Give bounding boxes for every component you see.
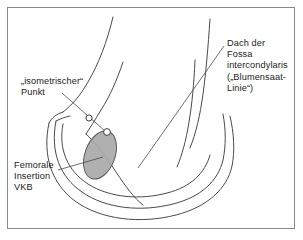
anatomy-illustration [0,0,303,240]
roof-leader-line [138,46,224,168]
label-notch-roof: Dach der Fossa intercondylaris („Blumens… [227,38,288,94]
femur-posterior-cortex [190,19,210,148]
label-femoral-insertion: Femorale Insertion VKB [14,160,54,194]
isometric-leader-line [62,93,105,131]
isometric-point-upper-marker [86,115,92,121]
femur-posterior-cortex-inner [177,60,195,167]
isometric-point-lower-marker [104,129,111,136]
femoral-acl-insertion-ellipse [77,126,122,183]
medial-condyle-arc [54,114,225,208]
figure-root: „isometrischer“ Punkt Femorale Insertion… [0,0,303,240]
label-isometric-point: „isometrischer“ Punkt [21,76,83,98]
lateral-condyle-outer-arc [47,116,234,220]
anterior-condyle-link-inner [56,116,70,121]
femur-anterior-cortex-inner [86,62,123,134]
